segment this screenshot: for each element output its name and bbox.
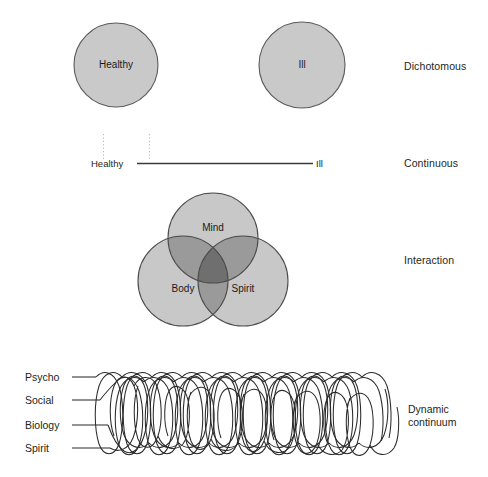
interaction-row-label: Interaction [404, 255, 454, 266]
continuous-row-label: Continuous [404, 158, 458, 169]
psycho-strand-label: Psycho [25, 372, 59, 383]
social-strand-wave [100, 377, 383, 454]
dynamic-continuum-diagram [72, 373, 399, 456]
biology-strand-label: Biology [25, 420, 59, 431]
venn-body-label: Body [153, 284, 213, 294]
continuum-right-label: Ill [316, 159, 323, 169]
health-illness-models-figure: Healthy Ill Dichotomous Healthy Ill Cont… [0, 0, 488, 477]
social-strand-label: Social [25, 395, 54, 406]
continuous-diagram [104, 134, 314, 164]
dynamic-continuum-row-label-line1: Dynamic [408, 403, 449, 416]
dynamic-continuum-row-label-line2: continuum [408, 416, 456, 429]
venn-spirit-label: Spirit [213, 284, 273, 294]
interaction-venn-diagram [138, 193, 288, 326]
spirit-strand-label: Spirit [25, 443, 49, 454]
healthy-circle-label: Healthy [86, 60, 146, 70]
dichotomous-row-label: Dichotomous [404, 61, 466, 72]
continuum-left-label: Healthy [91, 159, 123, 169]
ill-circle-label: Ill [272, 60, 332, 70]
venn-mind-label: Mind [183, 223, 243, 233]
